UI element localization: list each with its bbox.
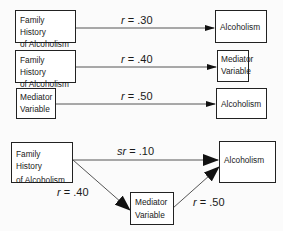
box-text: Family History — [20, 14, 71, 38]
arrow-a — [73, 160, 130, 210]
box-mediator-model: Mediator Variable — [130, 192, 174, 225]
box-text: Variable — [221, 65, 245, 77]
box-text: of Alcoholism — [16, 174, 68, 186]
box-predictor: Family History of Alcoholism — [11, 142, 73, 183]
box-mediator-2: Mediator Variable — [16, 88, 56, 119]
box-text: Mediator — [20, 91, 52, 103]
path-label-a: r = .40 — [57, 186, 89, 198]
box-mediator-1: Mediator Variable — [217, 50, 249, 82]
box-text: Mediator — [221, 53, 245, 65]
box-text: Mediator — [135, 196, 169, 208]
path-label-r40: r = .40 — [121, 53, 153, 65]
box-text: of Alcoholism — [20, 38, 71, 50]
box-text: Alcoholism — [221, 98, 261, 110]
box-alcoholism-1: Alcoholism — [215, 10, 267, 43]
path-label-b: r = .50 — [193, 196, 225, 208]
box-text: Family History — [16, 148, 68, 172]
box-text: Variable — [20, 103, 52, 115]
box-text: Variable — [135, 209, 169, 221]
box-outcome: Alcoholism — [219, 141, 276, 183]
path-label-r50: r = .50 — [121, 90, 153, 102]
box-family-history-1: Family History of Alcoholism — [15, 10, 76, 43]
mediation-diagram: Family History of Alcoholism r = .30 Alc… — [0, 0, 283, 231]
box-text: Alcoholism — [224, 154, 264, 166]
box-alcoholism-2: Alcoholism — [216, 88, 267, 119]
box-text: Family History — [20, 54, 71, 78]
box-family-history-2: Family History of Alcoholism — [15, 50, 76, 83]
box-text: Alcoholism — [220, 21, 260, 33]
path-label-direct: sr = .10 — [117, 145, 154, 157]
path-label-r30: r = .30 — [121, 14, 153, 26]
